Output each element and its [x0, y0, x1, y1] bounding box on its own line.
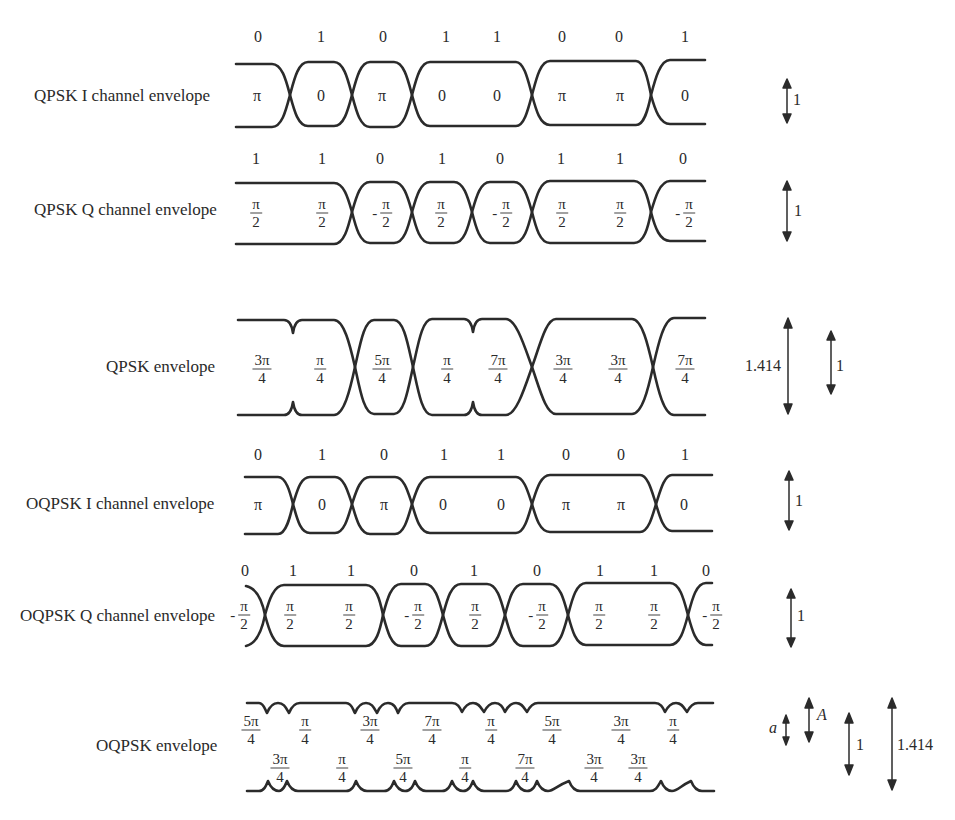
phase-label: π: [617, 497, 625, 513]
phase-label: 3π4: [584, 752, 603, 785]
phase-label: π2: [284, 599, 296, 632]
phase-label: 3π4: [252, 353, 271, 386]
phase-label: 3π4: [553, 353, 572, 386]
bit: 0: [679, 150, 687, 168]
bit: 1: [681, 28, 689, 46]
phase-label: 7π4: [488, 353, 507, 386]
bit: 0: [254, 28, 262, 46]
bit: 1: [493, 28, 501, 46]
scale-label: 1.414: [897, 736, 933, 754]
phase-label: π2: [469, 599, 481, 632]
phase-label: π2: [316, 197, 328, 230]
phase-label: -π2: [372, 197, 392, 230]
bit: 1: [557, 150, 565, 168]
waveform-oqpsk-i: [245, 475, 712, 534]
phase-label: 5π4: [542, 714, 561, 747]
phase-label: 7π4: [675, 353, 694, 386]
phase-label: 5π4: [372, 353, 391, 386]
bit: 1: [347, 562, 355, 580]
phase-label: π2: [648, 599, 660, 632]
bit: 0: [702, 562, 710, 580]
phase-label: π2: [343, 599, 355, 632]
phase-label: 0: [681, 88, 689, 104]
phase-label: π: [254, 497, 262, 513]
phase-label: π: [253, 88, 261, 104]
bit: 0: [376, 150, 384, 168]
scale-label: 1: [856, 736, 864, 754]
phase-label: -π2: [702, 599, 722, 632]
scale-label: 1: [794, 202, 802, 220]
bit: 0: [615, 28, 623, 46]
phase-label: -π2: [404, 599, 424, 632]
bit: 1: [440, 446, 448, 464]
bit: 1: [497, 446, 505, 464]
phase-label: π2: [556, 197, 568, 230]
phase-label: 3π4: [628, 752, 647, 785]
phase-label: 5π4: [241, 714, 260, 747]
waveform-qpsk-i: [236, 60, 705, 127]
scale-arrows: [783, 79, 896, 790]
waveform-qpsk-env: [238, 318, 705, 415]
waveform-diagram: [0, 0, 955, 820]
phase-label: π: [562, 497, 570, 513]
bit: 0: [496, 150, 504, 168]
phase-label: π4: [314, 353, 326, 386]
phase-label: 3π4: [360, 714, 379, 747]
phase-label: 7π4: [422, 714, 441, 747]
bit: 1: [650, 562, 658, 580]
bit: 1: [438, 150, 446, 168]
phase-label: 3π4: [270, 752, 289, 785]
bit: 0: [410, 562, 418, 580]
scale-label: 1: [793, 91, 801, 109]
bit: 1: [470, 562, 478, 580]
phase-label: π4: [441, 353, 453, 386]
phase-label: -π2: [675, 197, 695, 230]
bit: 1: [252, 150, 260, 168]
phase-label: π2: [593, 599, 605, 632]
phase-label: 3π4: [611, 714, 630, 747]
scale-label: 1: [795, 492, 803, 510]
bit: 1: [289, 562, 297, 580]
phase-label: π4: [299, 714, 311, 747]
bit: 1: [442, 28, 450, 46]
scale-label: 1: [836, 357, 844, 375]
phase-label: 0: [317, 88, 325, 104]
phase-label: -π2: [230, 599, 250, 632]
bit: 0: [380, 446, 388, 464]
phase-label: π: [380, 497, 388, 513]
scale-label: 1: [797, 607, 805, 625]
phase-label: π2: [614, 197, 626, 230]
bit: 0: [241, 562, 249, 580]
scale-label-A: A: [817, 706, 827, 724]
phase-label: 7π4: [515, 752, 534, 785]
bit: 0: [558, 28, 566, 46]
phase-label: -π2: [528, 599, 548, 632]
phase-label: 5π4: [393, 752, 412, 785]
bit: 0: [533, 562, 541, 580]
bit: 0: [562, 446, 570, 464]
bit: 1: [616, 150, 624, 168]
phase-label: 3π4: [608, 353, 627, 386]
bit: 1: [318, 150, 326, 168]
phase-label: 0: [497, 497, 505, 513]
phase-label: 0: [680, 497, 688, 513]
bit: 0: [379, 28, 387, 46]
scale-label-a: a: [769, 719, 777, 737]
waveform-qpsk-q: [236, 181, 705, 244]
bit: 1: [318, 446, 326, 464]
phase-label: π: [558, 88, 566, 104]
phase-label: π4: [336, 752, 348, 785]
phase-label: 0: [439, 497, 447, 513]
bit: 1: [681, 446, 689, 464]
phase-label: π2: [435, 197, 447, 230]
phase-label: π4: [667, 714, 679, 747]
phase-label: π4: [485, 714, 497, 747]
phase-label: 0: [318, 497, 326, 513]
scale-label: 1.414: [745, 357, 781, 375]
phase-label: 0: [493, 88, 501, 104]
bit: 0: [254, 446, 262, 464]
bit: 1: [596, 562, 604, 580]
phase-label: π: [616, 88, 624, 104]
phase-label: π2: [250, 197, 262, 230]
bit: 0: [617, 446, 625, 464]
